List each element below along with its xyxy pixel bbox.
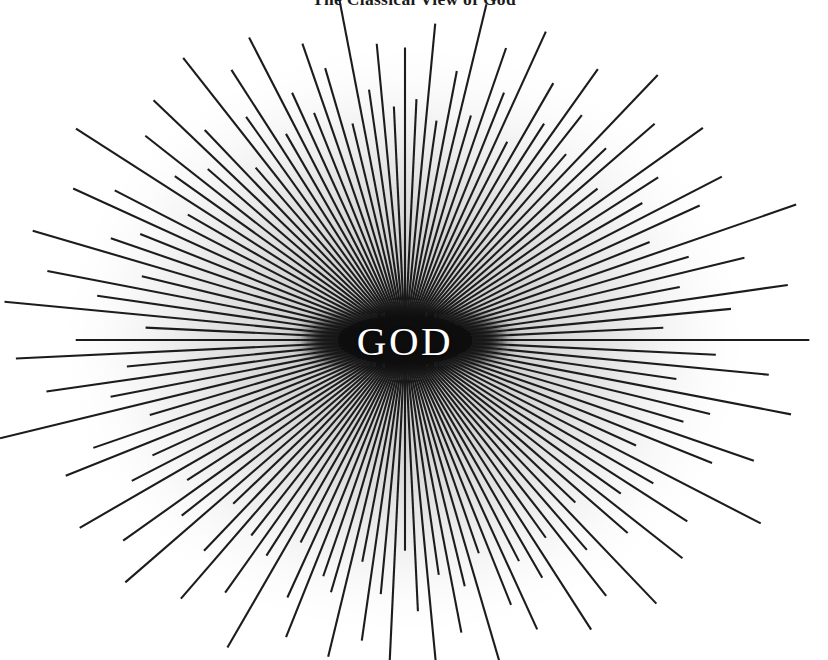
core-ellipse <box>298 303 512 377</box>
core-layer <box>298 303 512 377</box>
figure-root: The Classical View of God <box>0 0 828 660</box>
sunburst-figure <box>0 0 828 660</box>
sunburst-svg <box>0 0 828 660</box>
